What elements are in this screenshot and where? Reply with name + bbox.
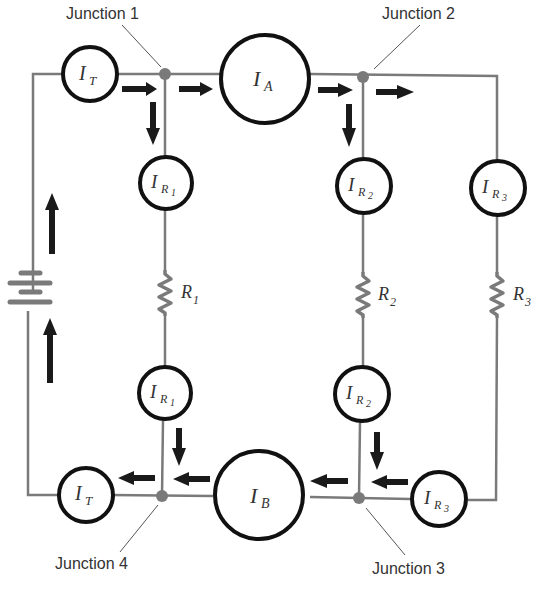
svg-text:2: 2 — [366, 398, 371, 409]
wire-branch2-bot — [359, 422, 360, 498]
resistor-r3-label: R 3 — [512, 284, 531, 309]
junction-2-leader — [374, 25, 420, 69]
junction-4-label: Junction 4 — [55, 555, 128, 572]
arrow-left-icon — [310, 474, 348, 488]
svg-text:R: R — [180, 282, 192, 302]
junction-4-leader — [120, 505, 158, 552]
wires — [28, 74, 497, 500]
svg-text:2: 2 — [390, 295, 396, 309]
wire-left-bottom — [28, 311, 58, 495]
junction-2-label: Junction 2 — [382, 5, 455, 22]
svg-text:1: 1 — [193, 293, 199, 307]
svg-text:I: I — [78, 62, 87, 84]
svg-text:T: T — [89, 73, 97, 88]
junction-3-label: Junction 3 — [372, 560, 445, 577]
arrow-down-icon — [342, 104, 356, 147]
junction-3-node — [353, 492, 365, 504]
resistor-r2-label: R 2 — [377, 284, 396, 309]
svg-text:B: B — [261, 496, 270, 511]
arrow-up-icon — [43, 318, 57, 383]
svg-text:R: R — [377, 284, 389, 304]
svg-text:3: 3 — [524, 295, 531, 309]
svg-text:R: R — [357, 185, 366, 199]
resistor-r3-icon — [491, 272, 503, 318]
resistor-r2-icon — [357, 272, 369, 318]
junction-1-label: Junction 1 — [66, 5, 139, 22]
battery-icon — [10, 273, 50, 302]
junction-3-leader — [366, 508, 405, 555]
arrow-up-icon — [45, 193, 59, 254]
arrow-down-icon — [370, 432, 384, 470]
resistor-r1-label: R 1 — [180, 282, 199, 307]
junction-4-node — [156, 490, 168, 502]
svg-text:1: 1 — [171, 187, 176, 198]
svg-text:3: 3 — [501, 192, 507, 203]
svg-text:R: R — [355, 393, 364, 407]
svg-text:1: 1 — [170, 397, 175, 408]
wire-branch1-bot — [162, 420, 163, 496]
arrow-right-icon — [122, 82, 157, 96]
svg-text:R: R — [491, 187, 500, 201]
meter-ib — [215, 451, 303, 539]
svg-text:I: I — [74, 482, 83, 504]
junction-1-leader — [122, 25, 161, 67]
arrow-right-icon — [318, 83, 353, 97]
svg-text:A: A — [263, 79, 273, 94]
svg-text:R: R — [512, 284, 524, 304]
svg-text:R: R — [159, 392, 168, 406]
junction-2-node — [357, 71, 369, 83]
resistor-r1-icon — [159, 270, 171, 316]
svg-text:R: R — [433, 498, 442, 512]
wire-left-top — [33, 74, 62, 293]
wire-branch3-bot — [468, 318, 497, 500]
arrow-left-icon — [371, 475, 408, 489]
arrow-left-icon — [173, 472, 210, 486]
arrow-left-icon — [118, 471, 155, 485]
svg-text:R: R — [160, 182, 169, 196]
svg-text:T: T — [85, 493, 93, 508]
arrow-down-icon — [172, 428, 186, 466]
junction-1-node — [159, 68, 171, 80]
arrow-down-icon — [146, 102, 160, 145]
circuit-diagram: Junction 1 Junction 2 Junction 3 Junctio… — [0, 0, 537, 593]
arrow-right-icon — [179, 82, 213, 96]
svg-text:3: 3 — [443, 503, 449, 514]
arrow-right-icon — [376, 85, 414, 99]
svg-text:2: 2 — [368, 190, 373, 201]
